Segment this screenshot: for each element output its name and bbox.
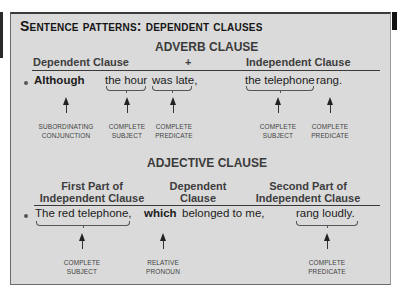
- arrow-up-icon: [327, 239, 328, 249]
- header-line: Second Part of: [250, 180, 366, 192]
- phrase-belonged-to-me: belonged to me,: [182, 207, 264, 219]
- label-line: PREDICATE: [303, 267, 351, 276]
- label-complete-subject-2: COMPLETESUBJECT: [59, 258, 105, 276]
- adverb-clause-heading: ADVERB CLAUSE: [155, 40, 258, 54]
- phrase-the-hour: the hour: [105, 74, 147, 86]
- label-line: SUBJECT: [255, 131, 301, 140]
- label-complete-predicate: COMPLETEPREDICATE: [150, 122, 198, 140]
- brace-predicate: [152, 86, 192, 91]
- label-line: COMPLETE: [306, 122, 354, 131]
- header-dependent-clause: Dependent Clause: [33, 56, 129, 68]
- arrow-up-icon: [278, 103, 279, 113]
- brace-main-subject: [246, 86, 314, 91]
- label-relative-pronoun: RELATIVEPRONOUN: [140, 258, 186, 276]
- header-underline-2: [34, 205, 380, 206]
- arrow-up-icon: [163, 239, 164, 249]
- arrow-up-icon: [330, 103, 331, 113]
- label-line: COMPLETE: [150, 122, 198, 131]
- header-line: Clause: [162, 192, 234, 204]
- label-line: PREDICATE: [306, 131, 354, 140]
- label-line: COMPLETE: [104, 122, 150, 131]
- brace-subject: [106, 86, 146, 91]
- bullet-1: [24, 81, 28, 85]
- label-complete-subject: COMPLETESUBJECT: [104, 122, 150, 140]
- panel-title: Sentence patterns: dependent clauses: [20, 18, 263, 34]
- brace-rang-loudly: [296, 221, 358, 226]
- header-line: Independent Clause: [250, 192, 366, 204]
- label-line: CONJUNCTION: [32, 131, 100, 140]
- header-first-part: First Part ofIndependent Clause: [34, 180, 150, 204]
- word-which: which: [144, 207, 177, 219]
- adjective-clause-heading: ADJECTIVE CLAUSE: [147, 156, 267, 170]
- label-line: SUBJECT: [104, 131, 150, 140]
- phrase-rang-loudly: rang loudly.: [296, 207, 355, 219]
- header-dependent: DependentClause: [162, 180, 234, 204]
- header-underline: [32, 70, 380, 71]
- label-line: PRONOUN: [140, 267, 186, 276]
- arrow-up-icon: [66, 103, 67, 113]
- header-line: Independent Clause: [34, 192, 150, 204]
- panel-title-text: Sentence patterns: dependent clauses: [20, 18, 263, 34]
- label-complete-predicate-2: COMPLETEPREDICATE: [303, 258, 351, 276]
- right-edge-tab: [392, 12, 397, 30]
- brace-red-telephone: [36, 221, 130, 226]
- header-line: Dependent: [162, 180, 234, 192]
- header-independent-clause: Independent Clause: [246, 56, 351, 68]
- header-line: First Part of: [34, 180, 150, 192]
- left-edge-bar: [0, 12, 3, 58]
- label-line: COMPLETE: [255, 122, 301, 131]
- bullet-2: [24, 214, 28, 218]
- label-line: COMPLETE: [59, 258, 105, 267]
- arrow-up-icon: [173, 103, 174, 113]
- label-subordinating-conjunction: SUBORDINATINGCONJUNCTION: [32, 122, 100, 140]
- header-second-part: Second Part ofIndependent Clause: [250, 180, 366, 204]
- label-line: SUBORDINATING: [32, 122, 100, 131]
- phrase-was-late: was late,: [152, 74, 197, 86]
- label-line: COMPLETE: [303, 258, 351, 267]
- header-plus: +: [185, 56, 191, 68]
- label-line: RELATIVE: [140, 258, 186, 267]
- phrase-the-red-telephone: The red telephone,: [35, 207, 132, 219]
- word-although: Although: [34, 74, 84, 86]
- phrase-the-telephone: the telephone: [245, 74, 315, 86]
- label-line: PREDICATE: [150, 131, 198, 140]
- arrow-up-icon: [82, 239, 83, 249]
- arrow-up-icon: [127, 103, 128, 113]
- label-main-complete-subject: COMPLETESUBJECT: [255, 122, 301, 140]
- label-main-complete-predicate: COMPLETEPREDICATE: [306, 122, 354, 140]
- phrase-rang: rang.: [316, 74, 342, 86]
- label-line: SUBJECT: [59, 267, 105, 276]
